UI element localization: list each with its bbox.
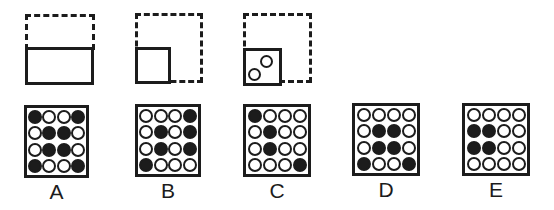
empty-dot [402,141,416,155]
option-c-grid[interactable] [243,104,311,177]
option-b-label: B [135,180,201,202]
empty-dot [512,157,526,171]
option-c[interactable]: C [243,104,311,200]
dashed-rectangle [25,14,95,50]
filled-dot [482,124,496,138]
filled-dot [467,124,481,138]
filled-dot [28,110,42,124]
empty-dot [497,141,511,155]
option-a-label: A [24,181,89,203]
empty-dot [467,108,481,122]
empty-dot [293,109,307,123]
option-b-grid[interactable] [135,104,201,177]
filled-dot [42,126,56,140]
filled-dot [467,141,481,155]
empty-dot [57,110,71,124]
empty-dot [168,158,182,172]
empty-dot [372,108,386,122]
empty-dot [512,141,526,155]
filled-dot [402,157,416,171]
empty-dot [263,109,277,123]
empty-dot [248,142,262,156]
empty-dot [154,158,168,172]
empty-dot [482,108,496,122]
filled-dot [357,157,371,171]
option-a[interactable]: A [24,105,89,201]
filled-dot [183,125,197,139]
empty-dot [293,142,307,156]
option-d-grid[interactable] [352,103,420,176]
option-d[interactable]: D [352,103,420,199]
empty-dot [482,157,496,171]
empty-dot [357,108,371,122]
solid-square [135,47,171,84]
filled-dot [28,159,42,173]
stimulus-panel-1 [0,0,120,100]
empty-dot [357,141,371,155]
filled-dot [387,141,401,155]
option-a-grid[interactable] [24,105,89,178]
dot-grid [246,107,308,174]
empty-dot [28,143,42,157]
dot-grid [465,106,527,173]
puzzle-figure: A B C D E [0,0,554,210]
filled-dot [293,158,307,172]
empty-dot [154,109,168,123]
empty-dot [402,108,416,122]
empty-dot [467,157,481,171]
empty-dot [71,143,85,157]
empty-dot [497,124,511,138]
filled-dot [154,125,168,139]
empty-dot [512,108,526,122]
circle-icon [248,68,261,81]
empty-dot [139,125,153,139]
empty-dot [57,159,71,173]
empty-dot [278,142,292,156]
option-d-label: D [352,179,420,201]
filled-dot [387,124,401,138]
empty-dot [263,158,277,172]
filled-dot [154,142,168,156]
filled-dot [71,110,85,124]
empty-dot [168,125,182,139]
empty-dot [387,108,401,122]
empty-dot [183,158,197,172]
empty-dot [71,126,85,140]
solid-square [243,48,282,86]
filled-dot [372,124,386,138]
empty-dot [497,157,511,171]
empty-dot [278,125,292,139]
filled-dot [372,141,386,155]
filled-dot [248,109,262,123]
empty-dot [512,124,526,138]
filled-dot [263,142,277,156]
empty-dot [278,158,292,172]
option-c-label: C [243,180,311,202]
dot-grid [355,106,417,173]
stimulus-panel-2 [120,0,230,100]
filled-dot [139,158,153,172]
empty-dot [248,158,262,172]
filled-dot [263,125,277,139]
empty-dot [42,159,56,173]
stimulus-panel-3 [228,0,338,100]
empty-dot [28,126,42,140]
empty-dot [168,109,182,123]
filled-dot [183,142,197,156]
filled-dot [482,141,496,155]
empty-dot [402,124,416,138]
filled-dot [42,143,56,157]
empty-dot [42,110,56,124]
option-e[interactable]: E [462,103,530,199]
empty-dot [278,109,292,123]
solid-rectangle [25,47,94,85]
dot-grid [138,107,198,174]
filled-dot [57,143,71,157]
option-b[interactable]: B [135,104,201,200]
empty-dot [248,125,262,139]
empty-dot [139,109,153,123]
empty-dot [372,157,386,171]
option-e-grid[interactable] [462,103,530,176]
empty-dot [168,142,182,156]
empty-dot [497,108,511,122]
